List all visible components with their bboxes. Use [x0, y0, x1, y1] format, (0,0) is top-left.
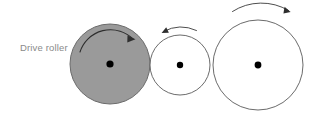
driven-roller-small-arrow-head [162, 27, 169, 33]
driven-roller-large-center-dot [255, 62, 262, 69]
driven-roller-small-rotation-arrow-icon [162, 27, 197, 33]
drive-roller-diagram: Drive roller [0, 0, 326, 131]
drive-roller-label: Drive roller [20, 42, 68, 53]
drive-roller-center-dot [106, 60, 113, 67]
driven-roller-large [213, 3, 303, 110]
driven-roller-small [150, 27, 210, 95]
driven-roller-small-center-dot [177, 62, 183, 68]
driven-roller-small-arrow-arc [164, 27, 197, 31]
driven-roller-large-rotation-arrow-icon [233, 3, 291, 14]
diagram-canvas: Drive roller [0, 0, 326, 131]
driven-roller-large-arrow-arc [233, 3, 289, 12]
driven-roller-large-arrow-head [283, 7, 290, 14]
drive-roller [70, 24, 150, 104]
